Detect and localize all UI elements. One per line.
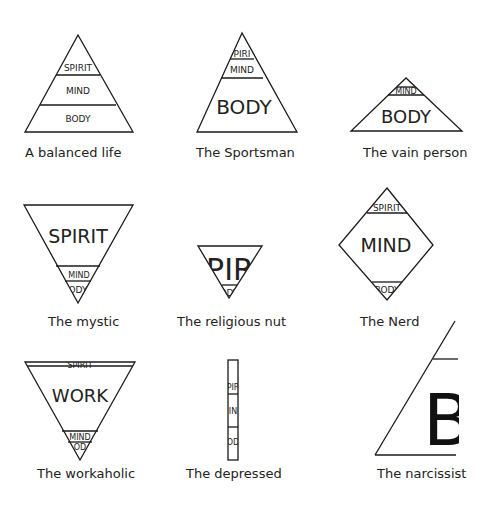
caption-vain-person: The vain person [362,145,468,160]
layer-body: BODY [216,95,272,119]
layer-spirit: SPIRIT [67,361,92,370]
layer-body: BODY [381,106,432,127]
layer-spirit: SPIRIT [48,225,108,247]
layer-work: WORK [52,385,109,406]
layer-spirit: PIRI [234,49,251,59]
caption-balanced-life: A balanced life [25,145,121,160]
caption-nerd: The Nerd [359,314,419,329]
figure-balanced-life: SPIRIT MIND BODY A balanced life [25,35,133,160]
caption-sportsman: The Sportsman [195,145,295,160]
layer-spirit: SPIRIT [64,63,93,73]
layer-mind: IN [229,407,237,416]
layer-mind: MIND [69,433,90,442]
layer-spirit: SPIRIT [373,203,402,213]
layer-body: OD [227,438,239,447]
layer-spirit: PIR [206,252,254,287]
layer-body: ODY [68,285,88,295]
layer-spirit: PIR [227,383,240,392]
layer-body: B [423,378,472,462]
caption-workaholic: The workaholic [36,466,135,481]
figure-sportsman: PIRI MIND BODY The Sportsman [195,33,297,160]
caption-depressed: The depressed [185,466,282,481]
figure-vain-person: MIND BODY The vain person [351,78,468,160]
layer-body: ODY [219,288,239,298]
figure-religious-nut: PIR ODY The religious nut [176,246,286,329]
figure-narcissist: B The narcissist [375,321,472,481]
figure-mystic: SPIRIT MIND ODY The mystic [24,205,133,329]
layer-mind: MIND [66,86,90,96]
figure-depressed: PIR IN OD The depressed [185,360,282,481]
layer-mind: MIND [395,87,416,96]
layer-mind: MIND [361,234,412,256]
layer-body: BODY [65,114,91,124]
figure-nerd: SPIRIT BODY MIND The Nerd [339,188,433,329]
personality-pyramids-diagram: SPIRIT MIND BODY A balanced life PIRI MI… [0,0,488,516]
layer-body: OD [74,443,86,452]
caption-religious-nut: The religious nut [176,314,286,329]
layer-mind: MIND [68,271,89,280]
figure-workaholic: SPIRIT OD WORK MIND The workaholic [25,361,135,481]
caption-mystic: The mystic [47,314,119,329]
caption-narcissist: The narcissist [376,466,466,481]
layer-mind: MIND [230,65,254,75]
